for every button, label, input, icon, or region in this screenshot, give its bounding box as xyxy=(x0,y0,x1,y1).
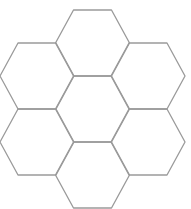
hexagon-lower-right xyxy=(111,109,185,175)
hexagon-lower-left xyxy=(0,109,74,175)
hexagon-bottom xyxy=(56,142,130,208)
hexagon-top xyxy=(56,10,130,76)
hexagon-center xyxy=(56,76,130,142)
hexagon-cluster-diagram xyxy=(0,0,191,209)
hexagon-upper-left xyxy=(0,43,74,109)
hexagon-upper-right xyxy=(111,43,185,109)
